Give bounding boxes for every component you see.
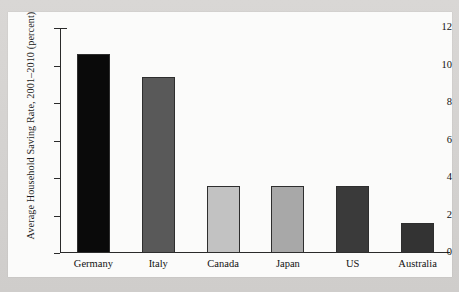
bar — [401, 223, 434, 253]
x-tick-label: Australia — [368, 258, 459, 269]
screenshot-root: Average Household Saving Rate, 2001–2010… — [0, 0, 459, 292]
bar — [336, 186, 369, 254]
bar — [271, 186, 304, 253]
y-tick-mark — [54, 178, 60, 179]
bar — [207, 186, 240, 253]
bar — [142, 77, 175, 253]
figure-page: Average Household Saving Rate, 2001–2010… — [8, 12, 452, 277]
y-tick-mark — [54, 216, 60, 217]
y-tick-mark — [54, 253, 60, 254]
y-tick-mark — [54, 103, 60, 104]
bar — [77, 54, 110, 253]
y-tick-mark — [54, 141, 60, 142]
y-tick-mark — [54, 66, 60, 67]
plot-area — [61, 28, 450, 253]
bar-chart: Average Household Saving Rate, 2001–2010… — [8, 12, 452, 277]
y-tick-mark — [54, 28, 60, 29]
y-axis-title: Average Household Saving Rate, 2001–2010… — [25, 11, 36, 241]
